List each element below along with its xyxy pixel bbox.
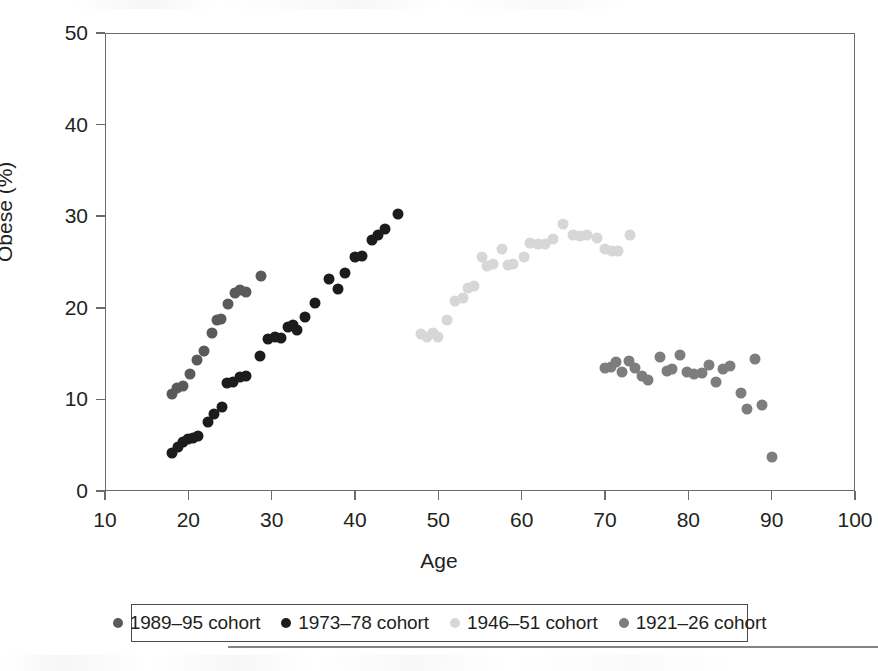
data-point — [433, 332, 444, 343]
x-axis-tick-label: 70 — [575, 508, 635, 532]
data-point — [725, 360, 736, 371]
data-point — [756, 399, 767, 410]
x-axis-tick-mark — [271, 491, 273, 500]
data-point — [547, 234, 558, 245]
data-point — [675, 349, 686, 360]
data-point — [340, 267, 351, 278]
plot-canvas — [105, 33, 855, 491]
x-axis-tick-mark — [688, 491, 690, 500]
data-point — [508, 258, 519, 269]
data-point — [616, 366, 627, 377]
legend-item-label: 1946–51 cohort — [467, 612, 598, 634]
y-axis-tick-label: 20 — [36, 296, 88, 320]
legend-marker-icon — [619, 618, 629, 628]
legend-item[interactable]: 1921–26 cohort — [619, 612, 767, 634]
x-axis-tick-mark — [854, 491, 856, 500]
y-axis-tick-mark — [96, 307, 105, 309]
data-point — [191, 355, 202, 366]
x-axis-tick-label: 80 — [658, 508, 718, 532]
y-axis-tick-mark — [96, 32, 105, 34]
data-point — [735, 387, 746, 398]
data-point — [519, 252, 530, 263]
data-point — [199, 345, 210, 356]
data-point — [185, 368, 196, 379]
scan-artifact-rule — [228, 646, 878, 648]
data-point — [710, 376, 721, 387]
data-point — [488, 258, 499, 269]
legend-item[interactable]: 1973–78 cohort — [281, 612, 429, 634]
x-axis-tick-mark — [438, 491, 440, 500]
data-point — [469, 280, 480, 291]
x-axis-title: Age — [0, 549, 878, 573]
y-axis-tick-label: 30 — [36, 204, 88, 228]
data-point — [310, 298, 321, 309]
data-point — [380, 224, 391, 235]
data-point — [240, 370, 251, 381]
y-axis-title: Obese (%) — [0, 162, 17, 262]
legend-item-label: 1973–78 cohort — [298, 612, 429, 634]
x-axis-tick-mark — [521, 491, 523, 500]
scan-artifact-bottom — [0, 655, 878, 671]
y-axis-tick-label: 10 — [36, 387, 88, 411]
data-point — [275, 333, 286, 344]
obesity-by-age-scatter-chart: 01020304050 102030405060708090100 Obese … — [0, 0, 878, 671]
data-point — [457, 292, 468, 303]
y-axis-tick-mark — [96, 399, 105, 401]
data-point — [496, 244, 507, 255]
x-axis-tick-label: 90 — [742, 508, 802, 532]
data-point — [441, 314, 452, 325]
data-point — [215, 313, 226, 324]
legend-marker-icon — [450, 618, 460, 628]
x-axis-tick-mark — [188, 491, 190, 500]
data-point — [222, 299, 233, 310]
legend-item[interactable]: 1989–95 cohort — [113, 612, 261, 634]
data-point — [655, 352, 666, 363]
y-axis-tick-label: 0 — [36, 479, 88, 503]
data-point — [178, 380, 189, 391]
y-axis-tick-label: 40 — [36, 113, 88, 137]
data-point — [240, 287, 251, 298]
data-point — [216, 401, 227, 412]
legend-marker-icon — [281, 618, 291, 628]
legend-item-label: 1921–26 cohort — [636, 612, 767, 634]
x-axis-tick-label: 40 — [325, 508, 385, 532]
y-axis-tick-mark — [96, 124, 105, 126]
data-point — [255, 270, 266, 281]
data-point — [750, 354, 761, 365]
data-point — [392, 209, 403, 220]
legend-marker-icon — [113, 618, 123, 628]
x-axis-tick-label: 10 — [75, 508, 135, 532]
data-point — [704, 359, 715, 370]
x-axis-tick-label: 60 — [492, 508, 552, 532]
data-point — [591, 233, 602, 244]
data-point — [666, 364, 677, 375]
x-axis-tick-label: 30 — [242, 508, 302, 532]
x-axis-tick-mark — [604, 491, 606, 500]
data-point — [193, 431, 204, 442]
data-point — [300, 311, 311, 322]
data-point — [356, 250, 367, 261]
y-axis-tick-mark — [96, 215, 105, 217]
x-axis-tick-label: 50 — [408, 508, 468, 532]
data-point — [741, 404, 752, 415]
legend-item[interactable]: 1946–51 cohort — [450, 612, 598, 634]
data-point — [333, 283, 344, 294]
x-axis-tick-mark — [354, 491, 356, 500]
x-axis-tick-mark — [104, 491, 106, 500]
x-axis-tick-label: 20 — [158, 508, 218, 532]
y-axis-tick-label: 50 — [36, 21, 88, 45]
data-point — [291, 324, 302, 335]
data-point — [324, 274, 335, 285]
data-point — [613, 246, 624, 257]
data-point — [255, 351, 266, 362]
x-axis-tick-label: 100 — [825, 508, 878, 532]
data-point — [206, 327, 217, 338]
legend-item-label: 1989–95 cohort — [130, 612, 261, 634]
data-point — [558, 219, 569, 230]
data-point — [766, 452, 777, 463]
data-point — [625, 229, 636, 240]
chart-legend: 1989–95 cohort1973–78 cohort1946–51 coho… — [131, 604, 748, 642]
data-point — [643, 375, 654, 386]
x-axis-tick-mark — [771, 491, 773, 500]
